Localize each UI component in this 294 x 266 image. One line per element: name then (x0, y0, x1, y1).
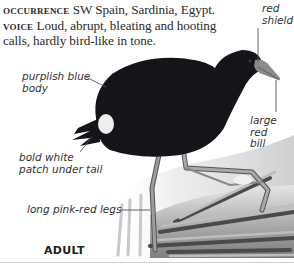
voice-line: VOICE Loud, abrupt, bleating and hooting… (3, 18, 235, 49)
label-line: patch under tail (19, 164, 102, 176)
label-line: purplish blue (22, 71, 90, 83)
undertail-patch (98, 114, 114, 134)
occurrence-text: SW Spain, Sardinia, Egypt. (73, 2, 215, 17)
bird-body (72, 50, 264, 157)
label-line: red (262, 3, 293, 15)
species-info: OCCURRENCE SW Spain, Sardinia, Egypt. VO… (3, 2, 235, 49)
label-line: shield (262, 15, 293, 27)
label-purplish-blue-body: purplish blue body (22, 71, 90, 94)
voice-heading: VOICE (3, 18, 33, 33)
label-long-legs: long pink-red legs (27, 204, 121, 216)
occurrence-line: OCCURRENCE SW Spain, Sardinia, Egypt. (3, 2, 235, 18)
label-line: body (22, 83, 90, 95)
occurrence-heading: OCCURRENCE (3, 2, 70, 17)
age-caption: ADULT (44, 244, 85, 257)
label-large-red-bill: large red bill (250, 115, 277, 150)
label-line: large (250, 115, 277, 127)
label-line: bold white (19, 152, 102, 164)
voice-text: Loud, abrupt, bleating and hooting calls… (3, 18, 216, 49)
label-red-shield: red shield (262, 3, 293, 26)
label-line: bill (250, 138, 277, 150)
bottom-divider (0, 262, 294, 263)
label-white-undertail-patch: bold white patch under tail (19, 152, 102, 175)
